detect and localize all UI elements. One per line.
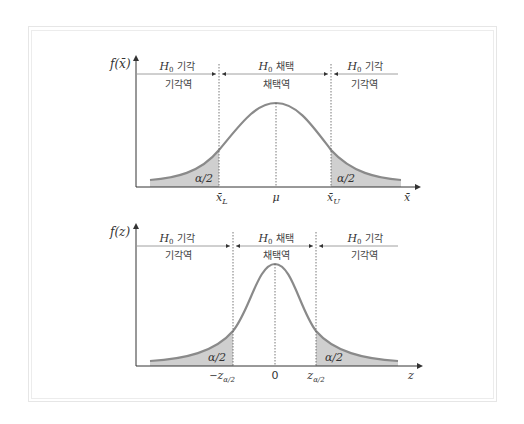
bottom-right-region-subtitle: 기각역 [351, 250, 378, 261]
hypothesis-test-diagram: f(x̄) H0기각 기각역 H0채택 채택역 H0기각 기각역 α/2 α/2… [0, 0, 524, 424]
top-plot: f(x̄) H0기각 기각역 H0채택 채택역 H0기각 기각역 α/2 α/2… [109, 57, 418, 206]
top-x-axis-label: x̄ [404, 191, 411, 204]
top-middle-region-title: H0채택 [257, 60, 293, 74]
top-right-tail-label: α/2 [337, 172, 355, 185]
bottom-right-region-title: H0기각 [346, 232, 382, 246]
bottom-middle-region-subtitle: 채택역 [263, 250, 290, 261]
top-left-tail-label: α/2 [195, 172, 213, 185]
top-left-region-title: H0기각 [158, 60, 194, 74]
bottom-left-region-title: H0기각 [158, 232, 194, 246]
bottom-left-tail-label: α/2 [208, 351, 226, 364]
bottom-lower-critical-label: −zα/2 [209, 369, 235, 384]
top-normal-curve [150, 103, 401, 180]
top-right-region-title: H0기각 [346, 60, 382, 74]
bottom-upper-critical-label: zα/2 [306, 369, 325, 384]
top-y-axis-label: f(x̄) [109, 57, 131, 71]
top-upper-critical-label: x̄U [327, 191, 340, 206]
top-lower-critical-label: x̄L [216, 191, 228, 206]
bottom-plot: f(z) H0기각 기각역 H0채택 채택역 H0기각 기각역 α/2 α/2 … [109, 225, 420, 384]
bottom-zero-label: 0 [272, 369, 279, 382]
bottom-standard-normal-curve [150, 264, 398, 361]
top-middle-region-subtitle: 채택역 [263, 79, 290, 90]
bottom-y-axis-label: f(z) [109, 225, 130, 239]
bottom-left-region-subtitle: 기각역 [165, 250, 192, 261]
bottom-x-axis-label: z [407, 369, 414, 382]
top-left-region-subtitle: 기각역 [165, 79, 192, 90]
top-mean-label: μ [272, 191, 279, 204]
bottom-right-tail-label: α/2 [325, 351, 343, 364]
bottom-middle-region-title: H0채택 [257, 232, 293, 246]
top-right-region-subtitle: 기각역 [351, 79, 378, 90]
